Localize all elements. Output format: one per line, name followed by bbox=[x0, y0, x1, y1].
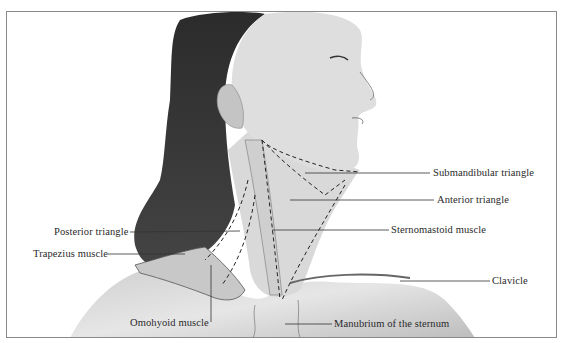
label-trapezius-muscle: Trapezius muscle bbox=[33, 248, 108, 260]
label-omohyoid-muscle: Omohyoid muscle bbox=[130, 317, 209, 329]
clavicle-bone bbox=[290, 275, 410, 283]
label-posterior-triangle: Posterior triangle bbox=[54, 226, 128, 238]
label-submandibular-triangle: Submandibular triangle bbox=[433, 167, 534, 179]
label-clavicle: Clavicle bbox=[492, 275, 528, 287]
label-manubrium-of-the-sternum: Manubrium of the sternum bbox=[334, 318, 449, 330]
label-sternomastoid-muscle: Sternomastoid muscle bbox=[391, 224, 486, 236]
label-anterior-triangle: Anterior triangle bbox=[437, 194, 509, 206]
